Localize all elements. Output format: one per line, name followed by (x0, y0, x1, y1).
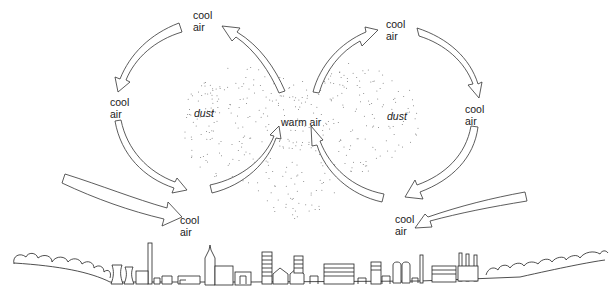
label-cool-air-bottom-left: cool air (180, 214, 199, 238)
label-dust-right: dust (387, 110, 407, 122)
arrow-left-descending (115, 120, 187, 193)
arrow-right-rising (313, 27, 378, 93)
label-cool-air-top-right: cool air (386, 18, 405, 42)
heat-island-diagram (0, 0, 612, 295)
label-dust-left: dust (194, 107, 214, 119)
arrow-right-top (417, 28, 482, 98)
arrow-right-ground (415, 192, 527, 228)
label-cool-air-bottom-right: cool air (395, 213, 414, 237)
city-skyline (14, 243, 608, 285)
arrow-left-rising (222, 26, 285, 93)
arrow-left-top (115, 23, 182, 92)
label-cool-air-mid-right: cool air (465, 103, 484, 127)
label-warm-air: warm air (281, 116, 321, 128)
arrow-right-descending (405, 126, 478, 199)
arrow-left-up-center (210, 126, 281, 193)
label-cool-air-top-left: cool air (193, 9, 212, 33)
label-cool-air-mid-left: cool air (110, 96, 129, 120)
